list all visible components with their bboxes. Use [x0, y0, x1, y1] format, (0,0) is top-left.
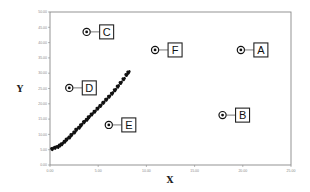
y-tick-label: 0.00	[40, 163, 47, 167]
outlier-point-c: C	[83, 25, 114, 39]
outlier-point-e: E	[105, 118, 136, 132]
outlier-point-d: D	[66, 81, 97, 95]
y-tick-label: 30.00	[38, 71, 47, 75]
outlier-point-a: A	[237, 43, 268, 57]
dot-marker-icon	[85, 30, 88, 33]
point-label: D	[85, 82, 93, 94]
point-label: C	[103, 26, 111, 38]
y-tick-label: 15.00	[38, 117, 47, 121]
point-label: A	[257, 44, 265, 56]
x-tick-label: 0.00	[47, 169, 54, 173]
outlier-point-f: F	[151, 43, 182, 57]
x-tick-label: 25.00	[287, 169, 296, 173]
data-point	[120, 80, 122, 83]
data-point	[128, 70, 130, 73]
y-tick-label: 25.00	[38, 87, 47, 91]
y-tick-label: 10.00	[38, 133, 47, 137]
point-label: B	[239, 109, 246, 121]
point-label: E	[125, 119, 132, 131]
outlier-point-b: B	[219, 108, 250, 122]
y-tick-label: 35.00	[38, 56, 47, 60]
x-axis-title: X	[167, 175, 174, 185]
x-tick-label: 10.00	[142, 169, 151, 173]
x-axis-ticks: 0.005.0010.0015.0020.0025.00	[47, 165, 296, 173]
y-tick-label: 5.00	[40, 148, 47, 152]
dot-marker-icon	[239, 49, 242, 52]
y-tick-label: 50.00	[38, 10, 47, 14]
y-axis-title: Y	[16, 84, 24, 94]
x-tick-label: 15.00	[190, 169, 199, 173]
data-point	[118, 84, 120, 87]
y-axis-ticks: 0.005.0010.0015.0020.0025.0030.0035.0040…	[38, 10, 50, 167]
y-tick-label: 45.00	[38, 26, 47, 30]
y-tick-label: 20.00	[38, 102, 47, 106]
data-point	[115, 88, 117, 91]
point-label: F	[172, 44, 179, 56]
dot-marker-icon	[107, 124, 110, 127]
labeled-outlier-points: ABCDEF	[66, 25, 268, 132]
x-tick-label: 5.00	[95, 169, 102, 173]
dot-marker-icon	[68, 86, 71, 89]
dot-marker-icon	[154, 49, 157, 52]
y-tick-label: 40.00	[38, 41, 47, 45]
data-point	[123, 77, 125, 80]
dot-marker-icon	[221, 114, 224, 117]
scatter-chart: 0.005.0010.0015.0020.0025.0030.0035.0040…	[0, 0, 310, 192]
x-tick-label: 20.00	[238, 169, 247, 173]
